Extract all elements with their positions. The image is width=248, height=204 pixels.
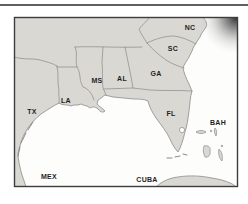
lake-okeechobee [179, 127, 184, 132]
map-svg [0, 0, 248, 204]
